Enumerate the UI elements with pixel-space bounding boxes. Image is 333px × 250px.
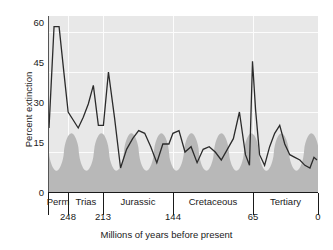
period-label-cretaceous: Cretaceous (173, 196, 253, 207)
x-tick-label: 65 (238, 211, 268, 222)
background-band-area (48, 133, 318, 192)
x-tick-label: 213 (88, 211, 118, 222)
y-axis-line (48, 16, 49, 192)
period-label-tertiary: Tertiary (253, 196, 318, 207)
period-label-perm: Perm (44, 196, 72, 207)
x-axis-line (48, 192, 318, 193)
y-axis-title: Percent extinction (23, 30, 34, 190)
y-tick-label: 60 (20, 18, 44, 28)
x-tick-label: 144 (158, 211, 188, 222)
plot-area (48, 16, 318, 192)
extinction-rate-chart: 60 45 30 15 0 Percent extinction Perm Tr… (0, 0, 333, 250)
chart-curves (48, 16, 318, 192)
period-label-jurassic: Jurassic (103, 196, 173, 207)
x-tick-label: 0 (303, 211, 333, 222)
period-label-trias: Trias (70, 196, 102, 207)
x-axis-title: Millions of years before present (0, 229, 333, 240)
x-tick-label: 248 (53, 211, 83, 222)
